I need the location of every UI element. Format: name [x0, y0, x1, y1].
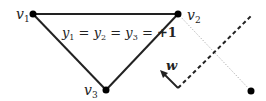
- vertex-v1-dot: [30, 11, 37, 18]
- vertex-v3-dot: [103, 87, 110, 94]
- equation-label: y1 = y2 = y3 = +1: [61, 25, 177, 43]
- dashed-hyperplane: [178, 15, 252, 88]
- vertex-v2-label: v2: [187, 7, 201, 25]
- diagram-canvas: v1 v2 v3 y1 = y2 = y3 = +1 w: [0, 0, 266, 101]
- outside-point-dot: [248, 88, 255, 95]
- normal-vector-label: w: [166, 58, 178, 73]
- vertex-v2-dot: [175, 11, 182, 18]
- vertex-v1-label: v1: [16, 6, 30, 24]
- vertex-v3-label: v3: [84, 82, 98, 100]
